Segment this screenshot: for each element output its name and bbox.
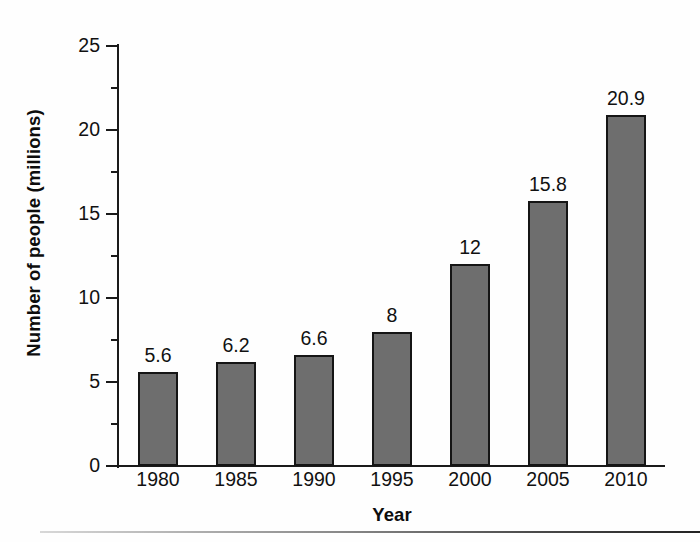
bar-value-label: 12 bbox=[416, 238, 524, 258]
bar[interactable] bbox=[216, 362, 256, 466]
bar[interactable] bbox=[450, 264, 490, 466]
y-axis-minor-tick bbox=[111, 423, 119, 425]
plot-area: 5.619806.219856.619908199512200015.82005… bbox=[119, 46, 665, 466]
bar[interactable] bbox=[606, 115, 646, 466]
y-axis-minor-tick bbox=[111, 255, 119, 257]
y-axis-tick-label: 20 bbox=[0, 120, 100, 140]
bar[interactable] bbox=[294, 355, 334, 466]
bar-group[interactable]: 5.61980 bbox=[138, 46, 178, 466]
y-axis-minor-tick bbox=[111, 87, 119, 89]
bar-value-label: 15.8 bbox=[494, 175, 602, 195]
x-axis-title: Year bbox=[119, 504, 665, 526]
y-axis-tick-label: 5 bbox=[0, 372, 100, 392]
bar-value-label: 8 bbox=[338, 306, 446, 326]
y-axis-minor-tick bbox=[111, 171, 119, 173]
y-axis-major-tick bbox=[106, 213, 119, 215]
y-axis-major-tick bbox=[106, 381, 119, 383]
y-axis-tick-label: 15 bbox=[0, 204, 100, 224]
bar[interactable] bbox=[138, 372, 178, 466]
x-axis-category-label: 2010 bbox=[572, 470, 680, 490]
bar[interactable] bbox=[372, 332, 412, 466]
y-axis-tick-label: 10 bbox=[0, 288, 100, 308]
y-axis-minor-tick bbox=[111, 339, 119, 341]
bar-group[interactable]: 81995 bbox=[372, 46, 412, 466]
page-divider-rule bbox=[40, 531, 700, 533]
bar-group[interactable]: 20.92010 bbox=[606, 46, 646, 466]
y-axis-major-tick bbox=[106, 465, 119, 467]
bar-value-label: 20.9 bbox=[572, 89, 680, 109]
bar-group[interactable]: 15.82005 bbox=[528, 46, 568, 466]
y-axis-tick-label: 25 bbox=[0, 36, 100, 56]
y-axis-tick-label: 0 bbox=[0, 456, 100, 476]
y-axis-major-tick bbox=[106, 45, 119, 47]
bar-group[interactable]: 6.21985 bbox=[216, 46, 256, 466]
bar-group[interactable]: 122000 bbox=[450, 46, 490, 466]
bar-chart-figure: Number of people (millions) 0510152025 5… bbox=[0, 0, 700, 542]
bar-value-label: 6.6 bbox=[260, 329, 368, 349]
y-axis-major-tick bbox=[106, 297, 119, 299]
bar[interactable] bbox=[528, 201, 568, 466]
y-axis-major-tick bbox=[106, 129, 119, 131]
bar-group[interactable]: 6.61990 bbox=[294, 46, 334, 466]
